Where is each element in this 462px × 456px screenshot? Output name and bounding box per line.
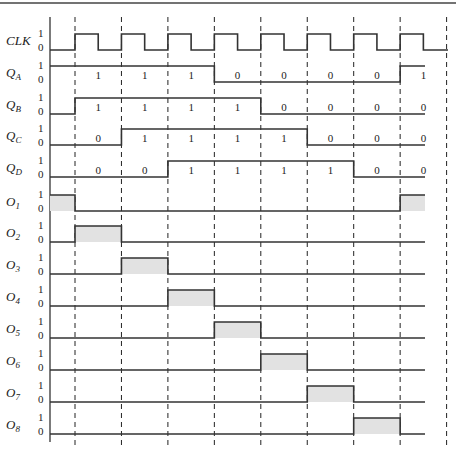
level-high-label: 1 (38, 154, 44, 166)
state-value: 1 (95, 101, 101, 113)
state-value: 0 (421, 101, 427, 113)
level-high-label: 1 (38, 91, 44, 103)
state-value: 0 (281, 101, 287, 113)
signal-name: QC (6, 128, 22, 145)
signal-row-qb: QB1011110000 (6, 91, 427, 117)
state-value: 1 (188, 132, 194, 144)
state-value: 0 (142, 164, 148, 176)
level-low-label: 0 (38, 233, 44, 245)
signal-row-o7: O710 (6, 379, 425, 405)
signal-name: O7 (6, 385, 20, 402)
state-value: 0 (421, 164, 427, 176)
active-pulse-fill (121, 258, 167, 274)
signal-name: O2 (6, 225, 20, 242)
level-high-label: 1 (38, 59, 44, 71)
level-low-label: 0 (38, 361, 44, 373)
signal-row-o6: O610 (6, 347, 425, 373)
signal-row-o8: O810 (6, 411, 425, 437)
state-value: 0 (95, 132, 101, 144)
level-high-label: 1 (38, 379, 44, 391)
active-pulse-fill (75, 226, 121, 242)
signal-row-o5: O510 (6, 315, 425, 341)
state-value: 1 (142, 101, 148, 113)
level-low-label: 0 (38, 329, 44, 341)
active-pulse-fill (261, 354, 307, 370)
signal-rows: CLK10QA1011100001QB1011110000QC100111100… (6, 27, 448, 437)
state-value: 0 (95, 164, 101, 176)
signal-name: QA (6, 65, 21, 82)
signal-name: O5 (6, 321, 20, 338)
state-value: 1 (235, 101, 241, 113)
level-high-label: 1 (38, 251, 44, 263)
state-value: 1 (188, 164, 194, 176)
signal-row-qc: QC1001111000 (6, 122, 427, 148)
state-value: 0 (374, 101, 380, 113)
timing-diagram: CLK10QA1011100001QB1011110000QC100111100… (0, 0, 462, 456)
waveform (50, 258, 425, 274)
signal-name: CLK (6, 33, 32, 48)
active-pulse-fill (168, 290, 214, 306)
level-high-label: 1 (38, 188, 44, 200)
signal-name: O8 (6, 417, 20, 434)
state-value: 0 (374, 69, 380, 81)
active-pulse-fill (50, 195, 75, 211)
state-value: 0 (281, 69, 287, 81)
signal-name: QD (6, 160, 22, 177)
signal-row-o1: O110 (6, 188, 425, 214)
waveform (50, 354, 425, 370)
level-low-label: 0 (38, 393, 44, 405)
state-value: 1 (142, 132, 148, 144)
level-low-label: 0 (38, 73, 44, 85)
signal-row-o4: O410 (6, 283, 425, 309)
waveform (50, 34, 448, 50)
waveform (50, 195, 425, 211)
level-low-label: 0 (38, 105, 44, 117)
signal-row-o3: O310 (6, 251, 425, 277)
waveform (50, 386, 425, 402)
level-low-label: 0 (38, 265, 44, 277)
state-value: 0 (328, 69, 334, 81)
signal-row-qa: QA1011100001 (6, 59, 426, 85)
signal-row-qd: QD1000111100 (6, 154, 427, 180)
state-value: 0 (328, 101, 334, 113)
level-low-label: 0 (38, 136, 44, 148)
state-value: 1 (142, 69, 148, 81)
level-low-label: 0 (38, 41, 44, 53)
active-pulse-fill (400, 195, 425, 211)
signal-row-o2: O210 (6, 219, 425, 245)
level-high-label: 1 (38, 27, 44, 39)
state-value: 1 (328, 164, 334, 176)
state-value: 1 (235, 132, 241, 144)
state-value: 1 (281, 164, 287, 176)
signal-row-clk: CLK10 (6, 27, 448, 53)
signal-name: QB (6, 97, 21, 114)
state-value: 0 (328, 132, 334, 144)
active-pulse-fill (214, 322, 260, 338)
level-high-label: 1 (38, 411, 44, 423)
level-high-label: 1 (38, 219, 44, 231)
signal-name: O1 (6, 194, 20, 211)
state-value: 0 (374, 132, 380, 144)
waveform (50, 290, 425, 306)
level-low-label: 0 (38, 297, 44, 309)
state-value: 1 (421, 69, 427, 81)
state-value: 0 (374, 164, 380, 176)
level-low-label: 0 (38, 425, 44, 437)
active-pulse-fill (354, 418, 400, 434)
signal-name: O3 (6, 257, 20, 274)
level-high-label: 1 (38, 283, 44, 295)
level-high-label: 1 (38, 122, 44, 134)
state-value: 0 (235, 69, 241, 81)
state-value: 0 (421, 132, 427, 144)
state-value: 1 (95, 69, 101, 81)
state-value: 1 (188, 69, 194, 81)
signal-name: O4 (6, 289, 20, 306)
state-value: 1 (188, 101, 194, 113)
level-high-label: 1 (38, 315, 44, 327)
state-value: 1 (281, 132, 287, 144)
active-pulse-fill (307, 386, 353, 402)
level-low-label: 0 (38, 168, 44, 180)
level-high-label: 1 (38, 347, 44, 359)
level-low-label: 0 (38, 202, 44, 214)
signal-name: O6 (6, 353, 20, 370)
